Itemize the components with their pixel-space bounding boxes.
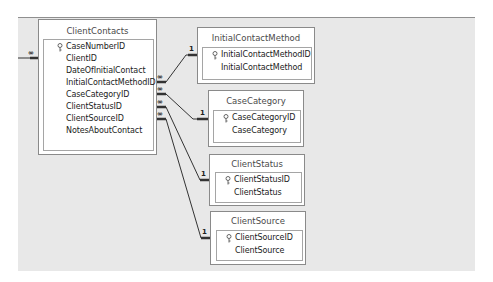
field-name[interactable]: DateOfInitialContact bbox=[66, 66, 146, 75]
field-name[interactable]: InitialContactMethodID bbox=[66, 78, 156, 87]
many-symbol: ∞ bbox=[157, 74, 163, 81]
primary-key-icon bbox=[212, 51, 218, 60]
field-name[interactable]: ClientStatus bbox=[234, 188, 281, 197]
table-client-contacts[interactable]: ClientContacts CaseNumberID ClientID Dat… bbox=[38, 19, 157, 155]
table-case-category[interactable]: CaseCategory CaseCategoryID CaseCategory bbox=[208, 90, 304, 147]
field-name[interactable]: CaseNumberID bbox=[66, 42, 125, 51]
field-name[interactable]: ClientStatusID bbox=[66, 102, 122, 111]
field-name[interactable]: NotesAboutContact bbox=[66, 126, 142, 135]
field-name[interactable]: ClientID bbox=[66, 54, 97, 63]
many-symbol: ∞ bbox=[28, 50, 34, 57]
table-title: ClientSource bbox=[211, 216, 305, 226]
field-list[interactable]: ClientStatusID ClientStatus bbox=[215, 172, 302, 203]
field-name[interactable]: CaseCategoryID bbox=[66, 90, 129, 99]
table-client-source[interactable]: ClientSource ClientSourceID ClientSource bbox=[210, 211, 306, 265]
field-name[interactable]: CaseCategory bbox=[232, 126, 287, 135]
one-symbol: 1 bbox=[202, 229, 207, 236]
field-name[interactable]: CaseCategoryID bbox=[232, 113, 295, 122]
many-symbol: ∞ bbox=[157, 111, 163, 118]
field-list[interactable]: InitialContactMethodID InitialContactMet… bbox=[202, 47, 312, 80]
field-name[interactable]: ClientSource bbox=[235, 246, 284, 255]
field-list[interactable]: ClientSourceID ClientSource bbox=[216, 230, 303, 261]
table-initial-contact-method[interactable]: InitialContactMethod InitialContactMetho… bbox=[197, 27, 315, 84]
primary-key-icon bbox=[223, 114, 229, 123]
primary-key-icon bbox=[225, 176, 231, 185]
many-symbol: ∞ bbox=[157, 99, 163, 106]
primary-key-icon bbox=[57, 43, 63, 52]
field-name[interactable]: ClientStatusID bbox=[234, 175, 290, 184]
many-symbol: ∞ bbox=[157, 86, 163, 93]
field-list[interactable]: CaseNumberID ClientID DateOfInitialConta… bbox=[43, 39, 154, 151]
table-title: ClientContacts bbox=[39, 26, 156, 36]
one-symbol: 1 bbox=[201, 171, 206, 178]
field-name[interactable]: ClientSourceID bbox=[235, 233, 293, 242]
field-name[interactable]: InitialContactMethodID bbox=[221, 50, 311, 59]
one-symbol: 1 bbox=[189, 46, 194, 53]
one-symbol: 1 bbox=[200, 110, 205, 117]
field-list[interactable]: CaseCategoryID CaseCategory bbox=[213, 110, 301, 143]
table-title: InitialContactMethod bbox=[198, 33, 314, 43]
table-title: ClientStatus bbox=[210, 159, 304, 169]
table-client-status[interactable]: ClientStatus ClientStatusID ClientStatus bbox=[209, 154, 305, 206]
field-name[interactable]: ClientSourceID bbox=[66, 114, 124, 123]
field-name[interactable]: InitialContactMethod bbox=[221, 63, 302, 72]
primary-key-icon bbox=[226, 234, 232, 243]
table-title: CaseCategory bbox=[209, 96, 303, 106]
